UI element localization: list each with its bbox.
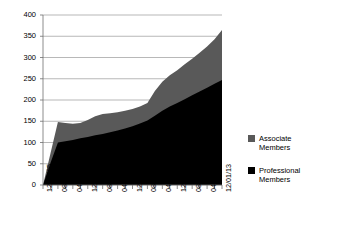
area-chart-plot [0,0,337,248]
x-axis-tick-label: 04/01/09 [121,164,129,192]
legend-item: AssociateMembers [248,134,292,152]
y-axis-tick-label: 300 [10,54,36,62]
x-axis-tick-label: 12/01/09 [136,164,144,192]
y-axis-tick-label: 150 [10,117,36,125]
legend-label: ProfessionalMembers [259,166,300,184]
legend-color-swatch [248,167,255,174]
y-axis-tick-label: 250 [10,75,36,83]
x-axis-tick-label: 08/01/06 [61,164,69,192]
y-axis-tick-label: 350 [10,32,36,40]
x-axis-tick-label: 12/01/11 [180,165,188,192]
x-axis-tick-label: 08/01/08 [106,164,114,192]
legend-label-line1: Professional [259,166,300,175]
y-axis-tick-label: 50 [10,160,36,168]
legend-label-line1: Associate [259,134,292,143]
legend-label-line2: Members [259,143,290,152]
legend-label: AssociateMembers [259,134,292,152]
x-axis-tick-label: 12/01/13 [225,164,233,192]
y-axis-tick-label: 400 [10,11,36,19]
legend-color-swatch [248,135,255,142]
y-axis-tick-label: 100 [10,139,36,147]
x-axis-tick-label: 04/01/07 [76,164,84,192]
x-axis-tick-label: 04/01/11 [165,165,173,192]
y-axis-tick-label: 0 [10,181,36,189]
x-axis-tick-label: 08/01/10 [150,164,158,192]
x-axis-tick-label: 12/01/05 [46,164,54,192]
legend-label-line2: Members [259,175,290,184]
legend-item: ProfessionalMembers [248,166,300,184]
y-axis-tick-label: 200 [10,96,36,104]
chart-container: 050100150200250300350400 12/01/0508/01/0… [0,0,337,248]
x-axis-tick-label: 04/01/13 [210,164,218,192]
series-areas-group [43,30,222,185]
x-axis-tick-label: 08/01/12 [195,164,203,192]
x-axis-tick-label: 12/01/07 [91,164,99,192]
